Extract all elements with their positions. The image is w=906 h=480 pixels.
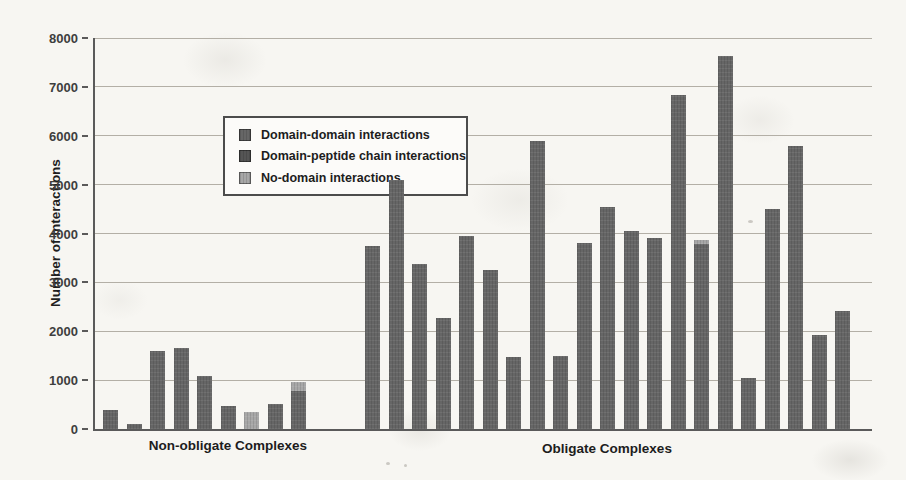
bar — [624, 231, 639, 429]
y-tick-mark — [82, 428, 88, 430]
bar-segment-dd — [671, 95, 686, 429]
bar — [506, 357, 521, 429]
legend-row: No-domain interactions — [239, 171, 466, 185]
y-gridline-8000 — [95, 38, 872, 39]
bar — [174, 348, 189, 429]
y-tick-label-7000: 7000 — [49, 79, 78, 94]
y-tick-label-5000: 5000 — [49, 177, 78, 192]
bar — [459, 236, 474, 430]
bar-segment-dd — [389, 180, 404, 429]
legend: Domain-domain interactions Domain-peptid… — [223, 116, 468, 196]
bar — [103, 410, 118, 429]
bar — [694, 240, 709, 429]
figure-canvas: Number of Interactions 01000200030004000… — [0, 0, 906, 480]
y-gridline-4000 — [95, 233, 872, 234]
y-tick-label-1000: 1000 — [49, 373, 78, 388]
bar-segment-dd — [694, 244, 709, 429]
bar — [412, 264, 427, 429]
bar-segment-dd — [127, 424, 142, 429]
bar-segment-dd — [600, 207, 615, 429]
bar — [389, 180, 404, 429]
legend-swatch-domain-peptide-icon — [239, 150, 251, 162]
bar — [150, 351, 165, 429]
bar — [436, 318, 451, 429]
y-tick-mark — [82, 330, 88, 332]
bar-segment-dd — [365, 246, 380, 429]
y-tick-mark — [82, 135, 88, 137]
x-group-label-obligate: Obligate Complexes — [542, 441, 672, 456]
bar-segment-dd — [624, 231, 639, 429]
bar-segment-dd — [788, 146, 803, 429]
bar-segment-dd — [718, 56, 733, 429]
legend-swatch-no-domain-icon — [239, 172, 251, 184]
bar — [600, 207, 615, 429]
bar — [671, 95, 686, 429]
bar-segment-dd — [459, 236, 474, 430]
bar — [268, 404, 283, 429]
bar — [221, 406, 236, 429]
bar-segment-dd — [835, 311, 850, 429]
bar-segment-dd — [197, 376, 212, 429]
bar-segment-dd — [291, 391, 306, 429]
bar-segment-nd — [291, 382, 306, 391]
bar-segment-dd — [412, 264, 427, 429]
bar — [788, 146, 803, 429]
bar — [127, 424, 142, 429]
bar-segment-dd — [221, 406, 236, 429]
y-tick-mark — [82, 37, 88, 39]
bar-segment-dd — [506, 357, 521, 429]
y-tick-mark — [82, 379, 88, 381]
bar-segment-dd — [436, 318, 451, 429]
bar-segment-nd — [244, 412, 259, 429]
legend-swatch-domain-domain-icon — [239, 129, 251, 141]
bar-segment-dd — [150, 351, 165, 429]
y-tick-label-3000: 3000 — [49, 275, 78, 290]
y-axis-ticks: 010002000300040005000600070008000 — [0, 38, 88, 429]
bar — [765, 209, 780, 429]
bar — [718, 56, 733, 429]
bar-segment-dd — [741, 378, 756, 429]
bar — [647, 238, 662, 429]
bar — [553, 356, 568, 429]
bar-segment-dd — [530, 141, 545, 429]
legend-row: Domain-peptide chain interactions — [239, 149, 466, 163]
y-tick-mark — [82, 86, 88, 88]
legend-label-domain-domain: Domain-domain interactions — [261, 128, 430, 142]
plot-area: Domain-domain interactions Domain-peptid… — [93, 38, 872, 431]
bar — [291, 382, 306, 429]
y-tick-label-2000: 2000 — [49, 324, 78, 339]
bar — [244, 412, 259, 429]
bar — [197, 376, 212, 429]
bar-segment-dd — [268, 404, 283, 429]
y-gridline-6000 — [95, 135, 872, 136]
bar-segment-dd — [483, 270, 498, 429]
bar-segment-dd — [577, 243, 592, 429]
y-gridline-7000 — [95, 86, 872, 87]
y-tick-label-8000: 8000 — [49, 31, 78, 46]
legend-label-no-domain: No-domain interactions — [261, 171, 401, 185]
legend-row: Domain-domain interactions — [239, 128, 466, 142]
bar — [530, 141, 545, 429]
y-gridline-5000 — [95, 184, 872, 185]
scan-speck — [386, 462, 390, 465]
bar-segment-dd — [553, 356, 568, 429]
legend-label-domain-peptide: Domain-peptide chain interactions — [261, 149, 466, 163]
bar-segment-dd — [174, 348, 189, 429]
y-tick-mark — [82, 233, 88, 235]
bar — [483, 270, 498, 429]
y-tick-label-0: 0 — [71, 422, 78, 437]
bar — [741, 378, 756, 429]
y-tick-mark — [82, 184, 88, 186]
bar — [835, 311, 850, 429]
y-tick-mark — [82, 281, 88, 283]
bar-segment-dd — [765, 209, 780, 429]
bar — [812, 335, 827, 429]
bar-segment-dd — [812, 335, 827, 429]
bar — [577, 243, 592, 429]
scan-speck — [404, 464, 407, 467]
bar-segment-dd — [103, 410, 118, 429]
y-tick-label-6000: 6000 — [49, 128, 78, 143]
y-tick-label-4000: 4000 — [49, 226, 78, 241]
bar — [365, 246, 380, 429]
scan-speck — [748, 220, 753, 223]
